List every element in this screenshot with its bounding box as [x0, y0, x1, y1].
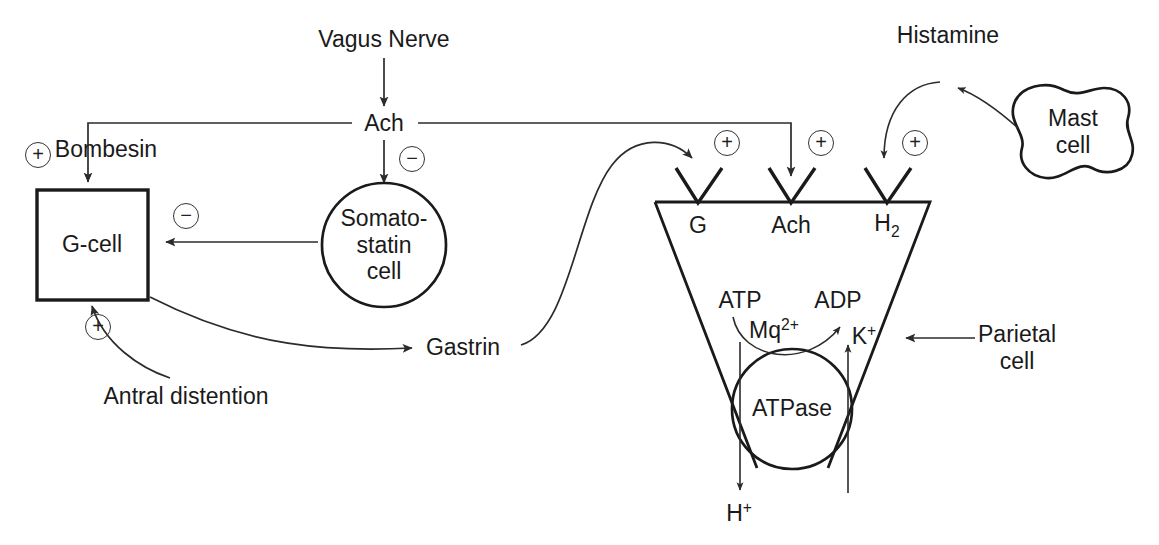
histamine-receptor-label: H2	[874, 210, 899, 241]
potassium-label: K+	[852, 322, 876, 351]
plus-antral-distention-badge: +	[85, 314, 111, 340]
parietal-cell-label: Parietal cell	[978, 321, 1056, 374]
vagus-nerve-label: Vagus Nerve	[318, 26, 449, 53]
plus-bombesin-symbol: +	[32, 144, 44, 164]
plus-gastrin-receptor-badge: +	[714, 130, 740, 156]
ach-source-label: Ach	[364, 110, 404, 137]
magnesium-base: Mq	[749, 317, 781, 343]
minus-somatostatin-badge: −	[173, 203, 199, 229]
magnesium-charge: 2+	[781, 316, 799, 333]
mast-cell-line-2: cell	[1048, 132, 1098, 159]
magnesium-label: Mq2+	[749, 316, 799, 345]
plus-ach-receptor-badge: +	[808, 130, 834, 156]
diagram-vectors	[0, 0, 1159, 545]
plus-histamine-receptor-symbol: +	[909, 132, 921, 152]
diagram-canvas: Vagus Nerve Ach Bombesin G-cell Somato- …	[0, 0, 1159, 545]
plus-histamine-receptor-badge: +	[902, 130, 928, 156]
parietal-cell-line-2: cell	[978, 348, 1056, 375]
ach-receptor-label: Ach	[771, 212, 811, 239]
potassium-base: K	[852, 323, 867, 349]
antral-distention-label: Antral distention	[104, 383, 269, 410]
gastrin-receptor-label: G	[689, 212, 707, 239]
plus-antral-distention-symbol: +	[92, 316, 104, 336]
ach-receptor-glyph	[769, 168, 815, 203]
proton-charge: +	[743, 499, 752, 516]
plus-ach-receptor-symbol: +	[815, 132, 827, 152]
minus-somatostatin-symbol: −	[180, 205, 192, 225]
somatostatin-line-2: statin	[341, 232, 428, 259]
minus-ach-somatostatin-symbol: −	[406, 148, 418, 168]
somatostatin-line-1: Somato-	[341, 205, 428, 232]
gastrin-label: Gastrin	[426, 334, 500, 361]
atpase-label: ATPase	[752, 395, 832, 422]
proton-base: H	[726, 500, 743, 526]
mast-to-histamine-arrow	[958, 88, 1018, 128]
proton-label: H+	[726, 499, 752, 528]
histamine-receptor-glyph	[865, 168, 911, 203]
histamine-label: Histamine	[897, 22, 999, 49]
minus-ach-somatostatin-badge: −	[399, 146, 425, 172]
somatostatin-line-3: cell	[341, 258, 428, 285]
adp-label: ADP	[814, 287, 861, 314]
histamine-receptor-base: H	[874, 210, 891, 236]
potassium-charge: +	[867, 322, 876, 339]
somatostatin-cell-label: Somato- statin cell	[341, 205, 428, 285]
histamine-receptor-subscript: 2	[891, 223, 900, 240]
parietal-cell-line-1: Parietal	[978, 321, 1056, 348]
bombesin-label: Bombesin	[55, 136, 157, 163]
plus-bombesin-badge: +	[25, 142, 51, 168]
gastrin-to-g-receptor-arrow	[521, 142, 692, 345]
gastrin-receptor-glyph	[676, 168, 722, 203]
atp-label: ATP	[718, 287, 761, 314]
mast-cell-line-1: Mast	[1048, 105, 1098, 132]
mast-cell-label: Mast cell	[1048, 105, 1098, 158]
g-cell-label: G-cell	[62, 231, 122, 258]
plus-gastrin-receptor-symbol: +	[721, 132, 733, 152]
